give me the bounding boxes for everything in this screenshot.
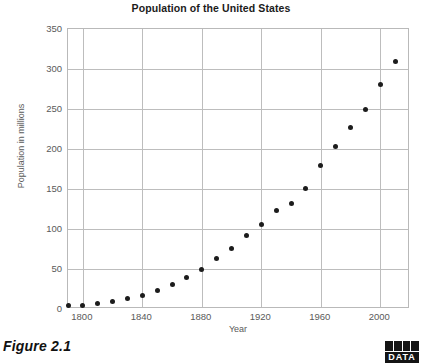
chart-title: Population of the United States xyxy=(0,2,422,14)
y-tick-label-50: 50 xyxy=(20,263,62,274)
y-axis-title: Population in millions xyxy=(16,76,26,216)
y-tick-label-200: 200 xyxy=(20,143,62,154)
y-tick-label-100: 100 xyxy=(20,223,62,234)
x-tick-label-1880: 1880 xyxy=(190,311,211,322)
x-tick-label-1800: 1800 xyxy=(71,311,92,322)
figure-caption: Figure 2.1 xyxy=(3,338,71,354)
x-axis-title: Year xyxy=(67,324,409,334)
badge-grid-decoration xyxy=(385,341,419,352)
y-tick-label-250: 250 xyxy=(20,103,62,114)
data-badge-label: DATA xyxy=(385,352,419,363)
x-tick-label-1840: 1840 xyxy=(131,311,152,322)
data-badge-icon: DATA xyxy=(385,341,419,363)
y-axis-tick-labels: 050100150200250300350 xyxy=(0,28,422,308)
y-tick-label-150: 150 xyxy=(20,183,62,194)
figure-container: Population of the United States 05010015… xyxy=(0,0,422,363)
y-tick-label-300: 300 xyxy=(20,63,62,74)
x-tick-label-1960: 1960 xyxy=(309,311,330,322)
y-tick-label-350: 350 xyxy=(20,23,62,34)
x-tick-label-1920: 1920 xyxy=(250,311,271,322)
x-tick-label-2000: 2000 xyxy=(369,311,390,322)
